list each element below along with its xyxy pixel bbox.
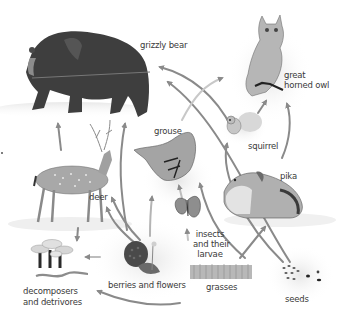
arrow-grasses-to-insects xyxy=(187,230,188,240)
arrow-deer-to-decomposers xyxy=(77,228,78,240)
label-berries-and-flowers: berries and flowers xyxy=(108,280,186,290)
label-pika: pika xyxy=(280,171,297,181)
decomposers-icon xyxy=(31,240,88,277)
label-grasses: grasses xyxy=(206,282,237,292)
label-decomposers-line1: decomposers xyxy=(23,286,78,296)
arrow-grouse-to-bear xyxy=(121,124,127,230)
label-seeds: seeds xyxy=(285,294,309,304)
label-squirrel: squirrel xyxy=(248,141,278,151)
arrow-deer-to-bear xyxy=(58,124,61,150)
label-insects-line1: insects xyxy=(195,229,225,239)
label-insects-line2: and their xyxy=(193,239,227,249)
grasses-icon xyxy=(190,264,252,279)
label-great-horned-owl-line1: great xyxy=(284,70,305,80)
food-web-diagram: grizzly bear great horned owl grouse squ… xyxy=(0,0,346,320)
label-great-horned-owl-line2: horned owl xyxy=(284,80,329,90)
label-decomposers-line2: and detrivores xyxy=(23,297,82,307)
label-grouse: grouse xyxy=(154,126,182,136)
stray-dot xyxy=(1,152,3,154)
deer-icon xyxy=(34,120,112,222)
label-insects-line3: larvae xyxy=(195,249,225,259)
label-deer: deer xyxy=(89,192,108,202)
arrow-grasses-to-pika xyxy=(240,227,265,258)
label-grizzly-bear: grizzly bear xyxy=(140,40,187,50)
